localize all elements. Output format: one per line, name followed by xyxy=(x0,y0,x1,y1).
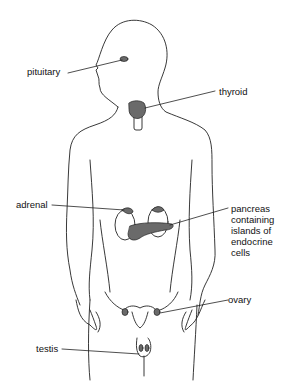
thyroid-leader xyxy=(145,91,215,108)
testis-right xyxy=(145,345,149,352)
uterus xyxy=(124,306,156,328)
adrenal-gland-right xyxy=(152,207,164,213)
ovary-leader xyxy=(160,300,228,313)
body-outline-figure xyxy=(0,0,295,387)
hip-line-left xyxy=(105,292,124,310)
left-arm-inner xyxy=(89,160,93,300)
hip-line-right xyxy=(160,292,178,310)
body-outline xyxy=(96,20,215,315)
pancreas-gland xyxy=(128,223,173,240)
torso-left xyxy=(100,220,110,292)
pituitary-leader xyxy=(68,60,122,73)
pituitary-label: pituitary xyxy=(27,66,60,77)
adrenal-gland-left xyxy=(122,208,133,214)
torso-right xyxy=(170,220,180,292)
thyroid-label: thyroid xyxy=(219,86,248,97)
testis-left xyxy=(139,345,143,352)
adrenal-leader xyxy=(52,205,124,210)
adrenal-label: adrenal xyxy=(16,199,48,210)
ovary-label: ovary xyxy=(228,294,251,305)
thyroid-gland xyxy=(129,101,146,119)
endocrine-diagram: pituitary thyroid adrenal pancreas conta… xyxy=(0,0,295,387)
right-arm-inner xyxy=(189,160,192,300)
ovary-right xyxy=(154,309,160,316)
ovary-left xyxy=(122,309,128,316)
pancreas-leader xyxy=(170,208,228,225)
pancreas-label: pancreas containing islands of endocrine… xyxy=(231,203,274,258)
right-leg xyxy=(193,305,197,380)
pituitary-gland xyxy=(120,57,128,62)
left-leg xyxy=(89,300,91,380)
body-outline-left xyxy=(66,107,118,305)
testis-label: testis xyxy=(36,343,58,354)
testis-leader xyxy=(62,349,139,354)
